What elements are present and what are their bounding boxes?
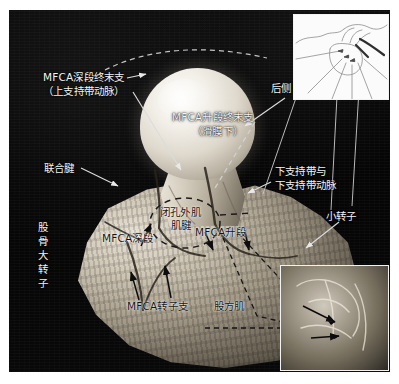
label-mfca-trochanteric-branch: MFCA转子支 <box>127 300 188 314</box>
label-conjoint-tendon: 联合腱 <box>44 162 75 176</box>
label-mfca-ascending: MFCA升段 <box>195 226 246 240</box>
label-lesser-trochanter: 小转子 <box>326 210 357 224</box>
label-obturator-externus-tendon-line2: 肌腱 <box>171 219 191 233</box>
label-inferior-retinaculum-line2: 下支持带动脉 <box>275 179 336 193</box>
inset-schematic-drawing <box>293 14 389 100</box>
label-mfca-ascending-terminal-sub: （滑膜下） <box>192 125 243 139</box>
label-mfca-deep: MFCA深段 <box>102 232 153 246</box>
schematic-linework <box>294 15 388 99</box>
label-inferior-retinaculum-line1: 下支持带与 <box>275 165 326 179</box>
label-greater-trochanter: 股骨大转子 <box>35 222 48 326</box>
label-mfca-ascending-terminal: MFCA升段终末支 <box>172 111 253 125</box>
label-obturator-externus-tendon-line1: 闭孔外肌 <box>160 206 201 220</box>
dissection-photograph: MFCA深段终末支 （上支持带动脉） MFCA升段终末支 （滑膜下） 联合腱 股… <box>9 10 390 372</box>
anatomical-figure: MFCA深段终末支 （上支持带动脉） MFCA升段终末支 （滑膜下） 联合腱 股… <box>0 0 399 384</box>
label-mfca-deep-terminal: MFCA深段终末支 <box>43 71 124 85</box>
label-posterior-side: 后侧 <box>271 82 291 96</box>
label-quadratus-femoris: 股方肌 <box>214 300 245 314</box>
label-mfca-deep-terminal-sub: （上支持带动脉） <box>43 85 125 99</box>
inset-closeup-photograph <box>280 265 389 371</box>
inset-photo-annotations <box>281 266 388 370</box>
